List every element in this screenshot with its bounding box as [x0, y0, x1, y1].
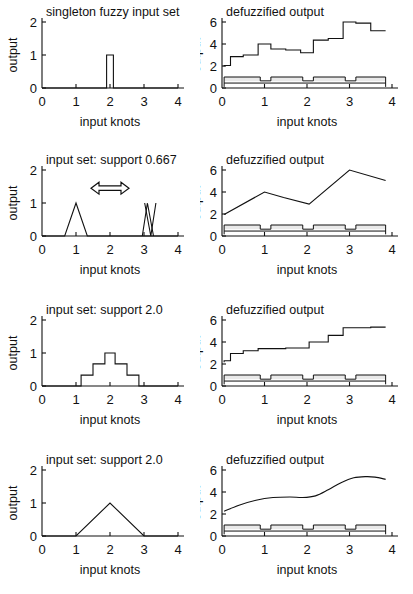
series-defuzzified-piecewise-linear [224, 170, 386, 215]
y-axis-title: output [6, 37, 20, 72]
x-tick-label: 4 [174, 542, 181, 557]
mf-shaded-band [224, 375, 260, 379]
x-tick-label: 0 [218, 242, 225, 257]
double-arrow-icon [91, 182, 129, 194]
y-axis-title: output [6, 335, 20, 370]
y-tick-label: 0 [210, 529, 217, 544]
x-tick-label: 4 [174, 392, 181, 407]
y-tick-label: 4 [210, 185, 217, 200]
y-tick-label: 0 [210, 379, 217, 394]
panel-title: defuzzified output [226, 5, 325, 19]
x-tick-label: 1 [72, 242, 79, 257]
y-tick-label: 4 [210, 37, 217, 52]
series-singleton-membership [42, 55, 178, 88]
mf-shaded-band [271, 77, 303, 81]
x-tick-label: 0 [218, 392, 225, 407]
panel-title: input set: support 2.0 [46, 303, 163, 317]
x-tick-label: 1 [261, 242, 268, 257]
series-defuzzified-smooth-curve [224, 477, 386, 512]
y-axis-title: output [200, 185, 203, 220]
panel-title: input set: support 2.0 [46, 453, 163, 467]
y-tick-label: 2 [210, 207, 217, 222]
mf-shaded-band [313, 77, 345, 81]
mf-shaded-band [356, 375, 386, 379]
x-tick-label: 1 [72, 542, 79, 557]
y-tick-label: 0 [30, 229, 37, 244]
mf-shaded-band [313, 525, 345, 529]
x-tick-label: 0 [38, 94, 45, 109]
x-axis-title: input knots [277, 413, 337, 427]
mf-shaded-band [271, 525, 303, 529]
y-axis-title: output [6, 185, 20, 220]
series-staircase-trapezoid [42, 353, 178, 386]
y-tick-label: 4 [210, 335, 217, 350]
mf-shaded-band [356, 77, 386, 81]
x-tick-label: 3 [346, 94, 353, 109]
panel-row2-left: 01201234input set: support 0.667outputin… [0, 148, 206, 298]
y-tick-label: 2 [210, 507, 217, 522]
y-axis-title: output [200, 485, 203, 520]
x-tick-label: 2 [303, 392, 310, 407]
x-axis-title: input knots [277, 115, 337, 129]
y-tick-label: 0 [30, 529, 37, 544]
x-tick-label: 0 [38, 392, 45, 407]
x-tick-label: 0 [218, 542, 225, 557]
x-axis-title: input knots [80, 563, 140, 577]
y-tick-label: 1 [30, 346, 37, 361]
x-tick-label: 3 [346, 542, 353, 557]
y-tick-label: 2 [30, 463, 37, 478]
x-tick-label: 0 [218, 94, 225, 109]
y-tick-label: 1 [30, 48, 37, 63]
panel-title: input set: support 0.667 [46, 153, 177, 167]
y-axis-title: output [200, 335, 203, 370]
y-axis-title: output [200, 37, 203, 72]
panel-row4-left: 01201234input set: support 2.0outputinpu… [0, 448, 206, 594]
x-tick-label: 3 [140, 242, 147, 257]
y-tick-label: 0 [30, 379, 37, 394]
series-defuzzified-staircase [224, 22, 386, 67]
x-tick-label: 2 [106, 242, 113, 257]
panel-row1-left: 01201234singleton fuzzy input setoutputi… [0, 0, 206, 148]
x-tick-label: 3 [140, 94, 147, 109]
mf-shaded-band [224, 77, 260, 81]
mf-shaded-band [224, 225, 260, 229]
mf-shaded-band [271, 225, 303, 229]
x-tick-label: 4 [388, 94, 395, 109]
y-tick-label: 1 [30, 496, 37, 511]
x-axis-title: input knots [80, 413, 140, 427]
mf-shaded-band [313, 225, 345, 229]
panel-row3-left: 01201234input set: support 2.0outputinpu… [0, 298, 206, 448]
y-tick-label: 2 [210, 357, 217, 372]
panel-title: defuzzified output [226, 153, 325, 167]
y-axis-title: output [6, 485, 20, 520]
series-triangle-at-1 [42, 203, 178, 236]
panel-title: defuzzified output [226, 303, 325, 317]
x-tick-label: 3 [140, 392, 147, 407]
x-tick-label: 1 [72, 94, 79, 109]
figure-grid: 01201234singleton fuzzy input setoutputi… [0, 0, 413, 594]
series-triangle-membership [42, 503, 178, 536]
x-tick-label: 2 [303, 242, 310, 257]
x-tick-label: 1 [261, 392, 268, 407]
x-axis-title: input knots [80, 115, 140, 129]
panel-title: singleton fuzzy input set [46, 5, 180, 19]
x-tick-label: 2 [303, 94, 310, 109]
x-tick-label: 0 [38, 542, 45, 557]
panel-row2-right: 024601234defuzzified outputoutputinput k… [200, 148, 413, 298]
panel-row4-right: 024601234defuzzified outputoutputinput k… [200, 448, 413, 594]
x-axis-title: input knots [80, 263, 140, 277]
y-tick-label: 6 [210, 15, 217, 30]
mf-shaded-band [356, 525, 386, 529]
x-tick-label: 1 [261, 94, 268, 109]
x-tick-label: 4 [388, 242, 395, 257]
x-tick-label: 2 [106, 542, 113, 557]
y-tick-label: 2 [30, 15, 37, 30]
mf-shaded-band [313, 375, 345, 379]
x-tick-label: 2 [106, 94, 113, 109]
mf-shaded-band [271, 375, 303, 379]
panel-row1-right: 024601234defuzzified outputoutputinput k… [200, 0, 413, 148]
y-tick-label: 0 [30, 81, 37, 96]
y-tick-label: 2 [30, 313, 37, 328]
x-tick-label: 3 [346, 242, 353, 257]
y-tick-label: 4 [210, 485, 217, 500]
